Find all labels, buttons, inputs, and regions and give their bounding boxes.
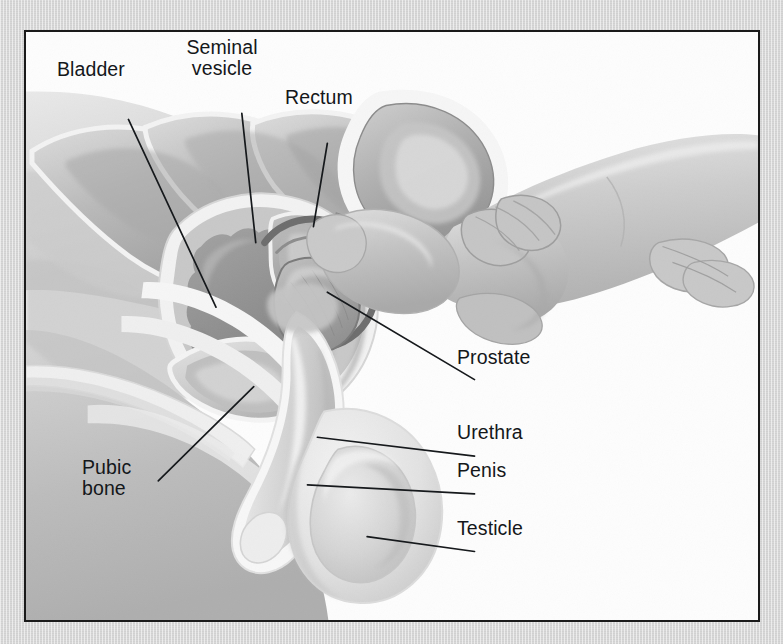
texture-overlay — [26, 32, 758, 620]
illustration-frame: Bladder Seminal vesicle Rectum Prostate … — [24, 30, 760, 622]
illustration-page: Bladder Seminal vesicle Rectum Prostate … — [0, 0, 783, 644]
prostate-exam-illustration — [26, 32, 758, 620]
